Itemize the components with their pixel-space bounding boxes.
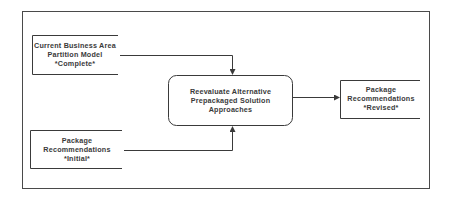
output-line-3: *Revised* [341,103,421,112]
input1-line-3: *Complete* [30,59,120,68]
output-line-2: Recommendations [341,94,421,103]
input2-line-3: *Initial* [34,154,120,163]
connector-input1-to-process [120,56,233,75]
process-line-2: Prepackaged Solution [168,96,293,105]
process-line-3: Approaches [168,105,293,114]
input2-line-1: Package [34,136,120,145]
input1-label: Current Business Area Partition Model *C… [30,41,120,68]
output-line-1: Package [341,85,421,94]
input2-label: Package Recommendations *Initial* [34,136,120,163]
output-label: Package Recommendations *Revised* [341,85,421,112]
connector-input2-to-process [124,127,233,151]
input2-line-2: Recommendations [34,145,120,154]
input1-line-2: Partition Model [30,50,120,59]
input1-line-1: Current Business Area [30,41,120,50]
process-label: Reevaluate Alternative Prepackaged Solut… [168,87,293,114]
process-line-1: Reevaluate Alternative [168,87,293,96]
